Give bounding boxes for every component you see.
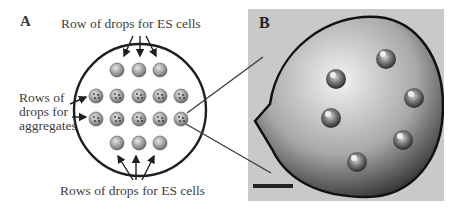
es-cell-drop (132, 63, 146, 77)
es-cell-drop (153, 63, 167, 77)
drops (89, 63, 188, 150)
es-cell-drop (132, 136, 146, 150)
aggregate-drop (110, 89, 124, 103)
es-cell-drop (110, 136, 124, 150)
aggregate-drop (132, 89, 146, 103)
top-arrows (124, 36, 156, 56)
aggregate-drop (132, 112, 146, 126)
aggregate-drop (153, 112, 167, 126)
aggregate-drop (110, 112, 124, 126)
aggregate-drop (153, 89, 167, 103)
aggregate-drop (174, 89, 188, 103)
aggregate-drop (89, 112, 103, 126)
es-cell-drop (153, 136, 167, 150)
panel-a-schematic (0, 0, 454, 209)
aggregate-drop (174, 112, 188, 126)
es-cell-drop (110, 63, 124, 77)
left-arrows (70, 97, 86, 117)
zoom-connector-lines (186, 57, 271, 173)
aggregate-drop (89, 89, 103, 103)
